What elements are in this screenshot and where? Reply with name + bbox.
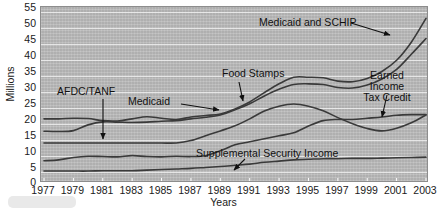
annotation-eitc-line2: Tax Credit: [363, 91, 410, 103]
y-tick-label: 50: [2, 18, 36, 28]
x-tick-label: 1995: [292, 184, 322, 196]
x-tick-label: 1979: [57, 184, 87, 196]
x-tick-label: 1999: [351, 184, 381, 196]
annotation-supplemental-security-income: Supplemental Security Income: [196, 148, 338, 159]
y-tick-label: 45: [2, 34, 36, 44]
x-tick-label: 1997: [322, 184, 352, 196]
corner-chip: [8, 196, 76, 208]
x-tick-label: 1989: [204, 184, 234, 196]
chart-figure: 55 50 45 40 35 30 25 20 15 10 5 0 Millio…: [0, 0, 447, 212]
series-line: [44, 157, 426, 171]
x-tick-label: 2001: [381, 184, 411, 196]
annotation-medicaid: Medicaid: [128, 96, 170, 107]
x-tick-label: 1993: [263, 184, 293, 196]
annotation-medicaid-and-schip: Medicaid and SCHIP: [259, 17, 356, 28]
x-tick-label: 1981: [87, 184, 117, 196]
annotation-eitc-line1: Earned Income: [370, 69, 404, 92]
x-tick-label: 1991: [234, 184, 264, 196]
y-tick-label: 55: [2, 2, 36, 12]
annotation-earned-income-tax-credit: Earned Income Tax Credit: [352, 70, 422, 103]
y-tick-label: 15: [2, 130, 36, 140]
annotation-food-stamps: Food Stamps: [222, 68, 284, 79]
x-tick-label: 1977: [28, 184, 58, 196]
x-tick-label: 1983: [116, 184, 146, 196]
y-tick-label: 10: [2, 146, 36, 156]
x-tick-label: 1987: [175, 184, 205, 196]
y-axis-title: Millions: [4, 52, 16, 116]
x-tick-label: 1985: [146, 184, 176, 196]
annotation-afdc-tanf: AFDC/TANF: [57, 86, 115, 97]
y-tick-label: 5: [2, 162, 36, 172]
x-tick-label: 2003: [410, 184, 440, 196]
